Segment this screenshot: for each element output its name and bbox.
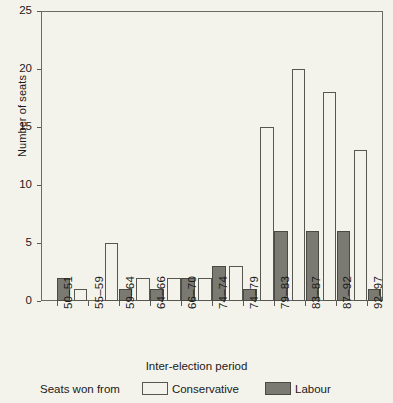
bars-layer: [41, 11, 383, 301]
x-axis-title: Inter-election period: [0, 360, 393, 372]
y-tick-label: 20: [2, 63, 32, 75]
x-tick-label: 64–66: [155, 276, 167, 309]
bar-conservative: [198, 278, 212, 301]
x-tick-label: 92–97: [372, 276, 384, 309]
x-tick-label: 66–70: [186, 276, 198, 309]
x-tick-label: 59–64: [124, 276, 136, 309]
bar-conservative: [354, 150, 368, 301]
bar-conservative: [105, 243, 119, 301]
legend-label-conservative: Conservative: [172, 383, 239, 395]
x-tick-label: 79–83: [279, 276, 291, 309]
bar-conservative: [74, 289, 88, 301]
y-tick-label: 15: [2, 121, 32, 133]
y-tick-label: 10: [2, 179, 32, 191]
x-tick-mark: [181, 301, 182, 306]
bar-conservative: [260, 127, 274, 301]
legend-item-conservative: Conservative: [142, 382, 239, 395]
legend: Seats won from Conservative Labour: [40, 382, 357, 395]
x-tick-label: 50–51: [62, 276, 74, 309]
legend-label-labour: Labour: [295, 383, 331, 395]
y-tick-label: 5: [2, 237, 32, 249]
legend-item-labour: Labour: [265, 382, 331, 395]
y-tick-label: 25: [2, 5, 32, 17]
x-tick-mark: [274, 301, 275, 306]
x-tick-mark: [88, 301, 89, 306]
legend-caption: Seats won from: [40, 383, 120, 395]
bar-conservative: [229, 266, 243, 301]
x-tick-label: 74–74: [217, 276, 229, 309]
legend-swatch-labour-icon: [265, 382, 291, 395]
x-tick-mark: [212, 301, 213, 306]
x-tick-mark: [336, 301, 337, 306]
x-tick-mark: [57, 301, 58, 306]
x-tick-mark: [119, 301, 120, 306]
x-tick-mark: [367, 301, 368, 306]
x-tick-mark: [243, 301, 244, 306]
bar-conservative: [167, 278, 181, 301]
x-tick-label: 55–59: [93, 276, 105, 309]
y-tick-mark: [37, 301, 41, 302]
legend-swatch-conservative-icon: [142, 382, 168, 395]
bar-conservative: [136, 278, 150, 301]
bar-conservative: [292, 69, 306, 301]
x-tick-label: 83–87: [310, 276, 322, 309]
y-tick-label: 0: [2, 295, 32, 307]
bar-conservative: [323, 92, 337, 301]
x-tick-mark: [305, 301, 306, 306]
bar-chart: Number of seats 0510152025 50–5155–5959–…: [0, 0, 393, 403]
x-tick-label: 74–79: [248, 276, 260, 309]
x-tick-label: 87–92: [341, 276, 353, 309]
x-tick-mark: [150, 301, 151, 306]
